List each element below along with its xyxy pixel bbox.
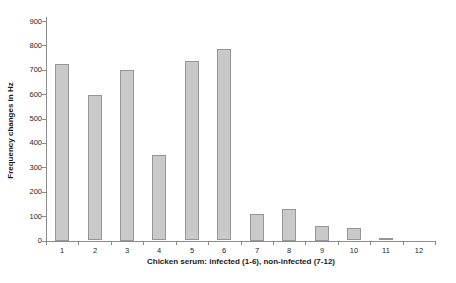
x-tick-label: 11 bbox=[370, 246, 402, 255]
y-tick-label: 500 bbox=[0, 114, 42, 123]
bar-7 bbox=[250, 214, 264, 241]
y-tick-label: 700 bbox=[0, 65, 42, 74]
bar-5 bbox=[185, 61, 199, 240]
x-tick-mark bbox=[46, 241, 47, 245]
y-tick-mark bbox=[42, 192, 46, 193]
bar-8 bbox=[282, 209, 296, 241]
x-tick-mark bbox=[370, 241, 371, 245]
x-tick-mark bbox=[403, 241, 404, 245]
y-tick-mark bbox=[42, 21, 46, 22]
x-tick-mark bbox=[273, 241, 274, 245]
bar-10 bbox=[347, 228, 361, 240]
y-tick-label: 100 bbox=[0, 212, 42, 221]
x-tick-mark bbox=[78, 241, 79, 245]
x-tick-mark bbox=[208, 241, 209, 245]
x-tick-label: 8 bbox=[273, 246, 305, 255]
bar-2 bbox=[88, 95, 102, 240]
x-tick-label: 3 bbox=[111, 246, 143, 255]
x-tick-mark bbox=[143, 241, 144, 245]
y-tick-mark bbox=[42, 143, 46, 144]
y-tick-label: 800 bbox=[0, 41, 42, 50]
x-tick-label: 10 bbox=[338, 246, 370, 255]
y-tick-mark bbox=[42, 70, 46, 71]
x-tick-label: 2 bbox=[79, 246, 111, 255]
y-tick-mark bbox=[42, 216, 46, 217]
x-axis-title: Chicken serum: infected (1-6), non-infec… bbox=[46, 257, 436, 266]
y-tick-label: 200 bbox=[0, 187, 42, 196]
y-tick-label: 600 bbox=[0, 90, 42, 99]
bar-3 bbox=[120, 70, 134, 241]
y-tick-label: 0 bbox=[0, 236, 42, 245]
y-axis-line bbox=[46, 17, 47, 242]
x-tick-mark bbox=[435, 241, 436, 245]
y-tick-label: 900 bbox=[0, 17, 42, 26]
x-tick-mark bbox=[338, 241, 339, 245]
x-tick-label: 9 bbox=[306, 246, 338, 255]
x-tick-label: 6 bbox=[208, 246, 240, 255]
bar-chart: Frequency changes in Hz Chicken serum: i… bbox=[0, 0, 456, 283]
x-tick-label: 12 bbox=[403, 246, 435, 255]
x-tick-mark bbox=[176, 241, 177, 245]
bar-11 bbox=[379, 238, 393, 240]
y-tick-mark bbox=[42, 119, 46, 120]
y-tick-mark bbox=[42, 94, 46, 95]
x-tick-label: 1 bbox=[46, 246, 78, 255]
y-tick-mark bbox=[42, 167, 46, 168]
x-tick-mark bbox=[111, 241, 112, 245]
bar-6 bbox=[217, 49, 231, 240]
x-tick-mark bbox=[241, 241, 242, 245]
x-tick-mark bbox=[305, 241, 306, 245]
y-tick-label: 400 bbox=[0, 138, 42, 147]
bar-1 bbox=[55, 64, 69, 241]
y-tick-label: 300 bbox=[0, 163, 42, 172]
bar-4 bbox=[152, 155, 166, 240]
x-tick-label: 5 bbox=[176, 246, 208, 255]
x-tick-label: 4 bbox=[143, 246, 175, 255]
y-axis-title: Frequency changes in Hz bbox=[6, 66, 15, 196]
x-tick-label: 7 bbox=[241, 246, 273, 255]
y-tick-mark bbox=[42, 45, 46, 46]
bar-9 bbox=[315, 226, 329, 241]
